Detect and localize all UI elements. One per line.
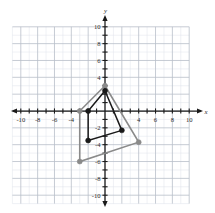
x-tick-label: -10	[16, 116, 25, 123]
y-tick-label: -4	[95, 141, 101, 148]
vertex-point	[103, 83, 108, 88]
vertex-point	[86, 109, 91, 114]
vertex-point	[119, 128, 124, 133]
x-tick-label: -8	[35, 116, 41, 123]
y-tick-label: -2	[95, 124, 101, 131]
vertex-point	[77, 109, 82, 114]
x-tick-label: 10	[186, 116, 193, 123]
x-tick-label: -6	[52, 116, 58, 123]
figure-background	[0, 0, 215, 213]
y-tick-label: -8	[95, 175, 101, 182]
x-axis-label: x	[203, 108, 207, 115]
vertex-point	[136, 140, 141, 145]
y-tick-label: -10	[92, 192, 101, 199]
y-tick-label: 10	[94, 23, 101, 30]
graph-svg: -10-8-6-44681010864-2-4-6-8-10 x y	[0, 0, 215, 213]
vertex-point	[77, 159, 82, 164]
vertex-point	[86, 138, 91, 143]
coordinate-plane-figure: -10-8-6-44681010864-2-4-6-8-10 x y	[0, 0, 215, 213]
x-tick-label: -4	[69, 116, 75, 123]
y-tick-label: -6	[95, 158, 101, 165]
vertex-point	[103, 88, 108, 93]
